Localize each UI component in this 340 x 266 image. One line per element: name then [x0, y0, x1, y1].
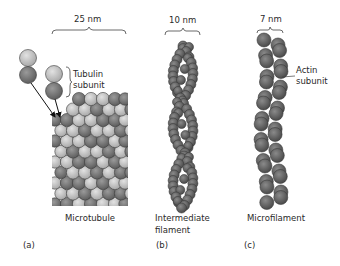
tubulin-subunit-label-line2: subunit [73, 80, 105, 91]
microfilament-width-label: 7 nm [260, 14, 282, 25]
actin-subunit-label-line1: Actin [296, 65, 317, 76]
intermediate-filament-label-line2: filament [155, 225, 190, 236]
width-bracket-7nm [257, 27, 283, 33]
intermediate-filament-label-line1: Intermediate [155, 213, 210, 224]
panel-letter-c: (c) [244, 240, 255, 251]
panel-letter-a: (a) [23, 240, 35, 251]
microfilament-label: Microfilament [247, 213, 305, 224]
tubulin-subunit-bracket [66, 67, 72, 97]
microfilament [254, 33, 288, 210]
tubulin-subunit-label-line1: Tubulin [73, 69, 103, 80]
actin-subunit-label-line2: subunit [296, 76, 328, 87]
tubulin-dimer-free-1 [20, 50, 37, 84]
intermediate-filament [168, 41, 198, 213]
microtubule-width-label: 25 nm [74, 14, 101, 25]
panel-letter-b: (b) [156, 240, 168, 251]
width-bracket-25nm [52, 27, 126, 34]
intermediate-filament-width-label: 10 nm [169, 15, 196, 26]
tubulin-dimer-free-2 [46, 66, 63, 100]
microtubule [49, 92, 137, 210]
microtubule-label: Microtubule [65, 213, 115, 224]
width-bracket-10nm [165, 28, 200, 35]
